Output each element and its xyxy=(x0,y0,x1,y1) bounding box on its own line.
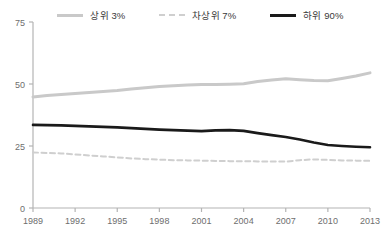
x-tick-label: 1992 xyxy=(65,216,85,226)
x-axis: 198919921995199820012004200720102013 xyxy=(23,208,380,226)
series-line-bottom90 xyxy=(33,125,370,147)
x-tick-label: 2001 xyxy=(191,216,211,226)
x-tick-label: 1995 xyxy=(107,216,127,226)
series-line-top3 xyxy=(33,73,370,97)
plot-area: 0255075 19891992199519982001200420072010… xyxy=(0,0,383,240)
y-tick-label: 0 xyxy=(20,204,25,214)
line-chart: 상위 3% 차상위 7% 하위 90% 0255075 198919921995… xyxy=(0,0,383,240)
x-tick-label: 1998 xyxy=(149,216,169,226)
x-tick-label: 2007 xyxy=(276,216,296,226)
y-tick-label: 75 xyxy=(15,18,25,28)
x-tick-label: 1989 xyxy=(23,216,43,226)
y-tick-label: 50 xyxy=(15,80,25,90)
y-tick-label: 25 xyxy=(15,142,25,152)
series-line-next7 xyxy=(33,152,370,161)
data-series-group xyxy=(33,73,370,162)
x-tick-label: 2010 xyxy=(318,216,338,226)
x-tick-label: 2013 xyxy=(360,216,380,226)
y-axis: 0255075 xyxy=(15,18,33,214)
x-tick-label: 2004 xyxy=(234,216,254,226)
